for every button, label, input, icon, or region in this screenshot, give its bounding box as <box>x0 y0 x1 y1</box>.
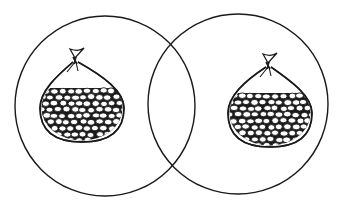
venn-diagram <box>0 0 340 211</box>
right-bag-of-beans-icon <box>222 53 317 161</box>
venn-diagram-canvas <box>0 0 340 211</box>
left-bag-of-beans-icon <box>34 48 128 156</box>
